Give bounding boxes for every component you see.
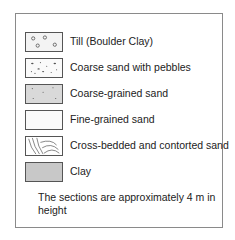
legend-item-clay: Clay xyxy=(25,162,220,183)
fine-grained-sand-pattern-swatch xyxy=(25,110,63,130)
cross-bedded-sand-pattern-swatch xyxy=(25,136,63,156)
legend-item-coarse-sand-pebbles: Coarse sand with pebbles xyxy=(25,58,220,79)
legend-label: Coarse sand with pebbles xyxy=(70,61,191,73)
sparse-dots-pattern-icon xyxy=(26,85,62,103)
legend-item-fine-grained-sand: Fine-grained sand xyxy=(25,110,220,131)
pebbles-dots-pattern-icon xyxy=(26,59,62,77)
legend-item-coarse-grained-sand: Coarse-grained sand xyxy=(25,84,220,105)
legend-label: Cross-bedded and contorted sand xyxy=(70,139,229,151)
clay-pattern-swatch xyxy=(25,162,63,182)
legend-item-till: Till (Boulder Clay) xyxy=(25,32,220,53)
legend-label: Till (Boulder Clay) xyxy=(70,35,153,47)
legend-label: Fine-grained sand xyxy=(70,113,155,125)
curved-lines-pattern-icon xyxy=(26,137,62,155)
legend-label: Coarse-grained sand xyxy=(70,87,168,99)
scale-note: The sections are approximately 4 m in he… xyxy=(38,191,218,217)
legend-item-cross-bedded-sand: Cross-bedded and contorted sand xyxy=(25,136,220,157)
legend-label: Clay xyxy=(70,165,91,177)
till-pattern-swatch xyxy=(25,32,63,52)
coarse-grained-sand-pattern-swatch xyxy=(25,84,63,104)
coarse-sand-pebbles-pattern-swatch xyxy=(25,58,63,78)
circles-pattern-icon xyxy=(26,33,62,51)
